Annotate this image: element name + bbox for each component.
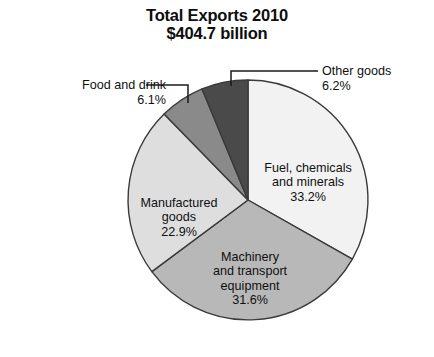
pie-svg [0,0,434,357]
callout-label-food-text: Food and drink [82,78,166,92]
callout-label-other-percent: 6.2% [322,79,430,94]
chart-stage: Fuel, chemicals and minerals 33.2% Machi… [0,0,434,357]
callout-label-food-percent: 6.1% [18,93,166,108]
callout-label-other-text: Other goods [322,64,391,78]
callout-label-other: Other goods 6.2% [322,64,430,93]
pie-chart-figure: Total Exports 2010 $404.7 billion Fuel, … [0,0,434,357]
callout-label-food: Food and drink 6.1% [18,78,166,107]
